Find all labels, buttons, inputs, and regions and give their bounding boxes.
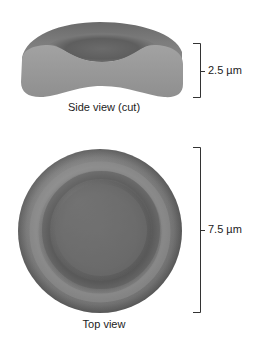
side-view-caption: Side view (cut) xyxy=(68,101,140,113)
side-view-dimension-bracket xyxy=(193,44,205,98)
side-view-cell xyxy=(21,22,183,97)
rbc-diagram xyxy=(0,0,259,339)
top-view-caption: Top view xyxy=(83,318,126,330)
top-view-dimension-label: 7.5 µm xyxy=(208,223,242,235)
side-view-dimension-label: 2.5 µm xyxy=(208,64,242,76)
top-view-dimension-bracket xyxy=(193,148,205,313)
top-view-cell xyxy=(18,149,182,313)
